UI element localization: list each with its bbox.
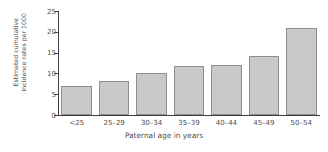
y-axis-title-line-2: incidence rates per 1000 [20, 0, 28, 104]
y-tick-label: 20 [47, 29, 56, 36]
bar-series [58, 11, 320, 115]
bar [174, 66, 205, 115]
bar [99, 81, 130, 115]
x-tick-label: 25–29 [95, 119, 132, 127]
x-tick-label: 50–54 [283, 119, 320, 127]
x-axis-line [58, 115, 320, 116]
bar [61, 86, 92, 115]
x-tick-label: 35–39 [170, 119, 207, 127]
y-tick-label: 10 [47, 70, 56, 77]
y-tick-label: 25 [47, 8, 56, 15]
x-axis-title: Paternal age in years [0, 131, 328, 140]
x-tick-label: 45–49 [245, 119, 282, 127]
y-tick-label: 5 [52, 91, 56, 98]
x-tick-label: 30–34 [133, 119, 170, 127]
y-tick-label: 0 [52, 112, 56, 119]
y-axis-title: Estimated cumulative incidence rates per… [0, 0, 40, 120]
y-tick-label: 15 [47, 50, 56, 57]
bar-chart-figure: Estimated cumulative incidence rates per… [0, 0, 328, 152]
plot-area: 0510152025 <2525–2930–3435–3940–4445–495… [58, 11, 320, 116]
bar [136, 73, 167, 115]
x-tick-label: 40–44 [208, 119, 245, 127]
bar [211, 65, 242, 115]
x-tick-label: <25 [58, 119, 95, 127]
bar [249, 56, 280, 115]
bar [286, 28, 317, 115]
y-axis-title-line-1: Estimated cumulative [12, 0, 20, 104]
